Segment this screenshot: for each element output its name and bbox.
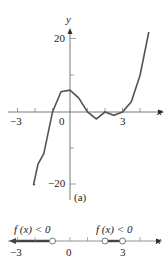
nl-tick-neg3: −3 <box>10 247 22 258</box>
x-tick-neg3: −3 <box>10 116 22 127</box>
nl-tick-0: 0 <box>66 247 72 258</box>
figure-caption: (a) <box>74 192 86 203</box>
annotation-left: f (x) < 0 <box>14 224 50 235</box>
y-tick-20: 20 <box>54 33 65 44</box>
open-point-2 <box>102 238 108 244</box>
y-axis-arrow-icon <box>68 28 73 34</box>
open-point-neg1 <box>50 238 56 244</box>
y-tick-neg20: −20 <box>48 178 65 189</box>
annotation-right: f (x) < 0 <box>96 224 132 235</box>
number-line-x-label: x <box>156 235 161 246</box>
open-point-3 <box>120 238 126 244</box>
nl-tick-3: 3 <box>120 247 126 258</box>
x-tick-0: 0 <box>59 116 65 127</box>
y-axis-label: y <box>66 14 71 25</box>
graph-axes <box>8 32 158 200</box>
x-axis-label: x <box>157 106 162 117</box>
x-tick-3: 3 <box>120 116 126 127</box>
x-ticks <box>18 108 141 112</box>
function-curve <box>33 32 149 185</box>
chart-canvas <box>0 0 168 260</box>
y-ticks <box>70 39 76 185</box>
